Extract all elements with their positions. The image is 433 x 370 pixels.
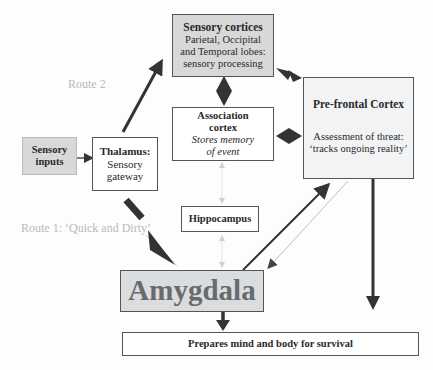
arrow-route2	[123, 64, 160, 132]
arrow-hippocampus-amygdala	[219, 235, 225, 268]
association-title1: Association	[197, 110, 248, 122]
sensory-inputs-line2: inputs	[35, 156, 63, 168]
association-line2: of event	[207, 146, 240, 158]
node-outcome: Prepares mind and body for survival	[122, 332, 419, 356]
association-line1: Stores memory	[192, 134, 254, 146]
arrow-association-prefrontal	[276, 128, 302, 144]
arrow-prefrontal-to-outcome	[366, 179, 380, 310]
prefrontal-line1: Assessment of threat:	[313, 131, 403, 143]
sensory-cortices-title: Sensory cortices	[183, 21, 263, 34]
route2-label: Route 2	[68, 77, 106, 92]
sensory-cortices-line3: sensory processing	[183, 58, 263, 70]
thalamus-line2: gateway	[107, 170, 144, 183]
outcome-title: Prepares mind and body for survival	[188, 338, 353, 350]
association-title2: cortex	[209, 122, 237, 134]
thalamus-title: Thalamus:	[100, 145, 151, 158]
sensory-cortices-line1: Parietal, Occipital	[185, 34, 261, 46]
amygdala-title: Amygdala	[128, 274, 255, 307]
node-hippocampus: Hippocampus	[181, 206, 259, 232]
node-sensory-cortices: Sensory cortices Parietal, Occipital and…	[172, 14, 274, 77]
node-prefrontal-cortex: Pre-frontal Cortex Assessment of threat:…	[303, 77, 414, 179]
arrow-association-hippocampus	[219, 162, 225, 204]
node-sensory-inputs: Sensory inputs	[22, 137, 77, 175]
arrow-cortices-prefrontal	[276, 68, 302, 82]
arrow-cortices-association	[216, 76, 232, 106]
arrow-prefrontal-to-amygdala	[270, 181, 348, 266]
prefrontal-line2: ‘tracks ongoing reality’	[309, 143, 408, 155]
node-amygdala: Amygdala	[120, 270, 264, 312]
sensory-inputs-line1: Sensory	[32, 144, 68, 156]
node-thalamus: Thalamus: Sensory gateway	[92, 137, 158, 191]
node-association-cortex: Association cortex Stores memory of even…	[172, 107, 274, 161]
hippocampus-title: Hippocampus	[189, 213, 251, 225]
arrow-amygdala-to-outcome	[216, 312, 230, 331]
thalamus-line1: Sensory	[107, 158, 142, 171]
route1-label: Route 1: ‘Quick and Dirty’	[21, 221, 151, 236]
prefrontal-title: Pre-frontal Cortex	[313, 98, 404, 111]
sensory-cortices-line2: and Temporal lobes:	[180, 46, 265, 58]
